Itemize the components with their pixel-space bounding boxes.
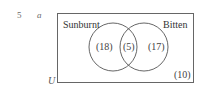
region-only-sunburnt: (18) <box>96 42 113 52</box>
set-label-sunburnt: Sunburnt <box>63 20 100 30</box>
region-intersection: (5) <box>123 42 135 52</box>
region-only-bitten: (17) <box>148 42 165 52</box>
universal-set-label: U <box>48 76 55 86</box>
set-label-bitten: Bitten <box>163 20 187 30</box>
region-neither: (10) <box>174 70 191 80</box>
